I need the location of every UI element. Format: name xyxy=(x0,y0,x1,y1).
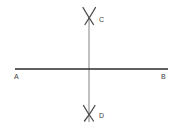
point-label-a: A xyxy=(14,73,19,81)
geometry-diagram: A B C D xyxy=(0,0,179,135)
point-label-d: D xyxy=(99,112,104,120)
diagram-canvas xyxy=(0,0,179,135)
point-label-b: B xyxy=(161,73,166,81)
point-label-c: C xyxy=(99,16,104,24)
